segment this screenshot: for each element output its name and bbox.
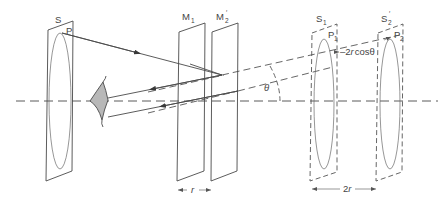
image2-label: S <box>381 13 387 24</box>
image-sep-label: 2r <box>343 183 352 194</box>
source-plate-s: S P <box>46 14 73 181</box>
source-label: S <box>55 14 61 25</box>
mirror1-sub: 1 <box>191 17 195 24</box>
theta-label: θ <box>264 82 270 93</box>
eye-icon <box>90 76 108 127</box>
mirror-m2-prime: M 2 ′ <box>211 9 238 181</box>
image-separation-dimension: 2r <box>312 183 376 194</box>
virtual-ray-back-2 <box>148 91 238 113</box>
image2-sub: 2 <box>388 19 392 26</box>
reflected-ray-2-arrow <box>160 91 238 107</box>
mirror-separation-dimension: r <box>178 184 211 195</box>
virtual-source-s1: S 1 P 1 <box>310 13 338 181</box>
mirror2-label: M <box>216 11 224 22</box>
image2-prime: ′ <box>389 10 391 17</box>
virtual-ray-back <box>148 75 224 92</box>
path-difference-annotation: –2rcosθ <box>334 37 391 57</box>
path-diff-prefix: –2rcosθ <box>340 46 375 57</box>
mirror-m1: M 1 <box>177 11 205 181</box>
virtual-ray-2 <box>238 67 333 91</box>
angle-theta: θ <box>264 66 280 101</box>
virtual-source-s2-prime: S 2 ′ P 2 <box>376 10 404 181</box>
ray-segment <box>190 64 222 75</box>
incident-ray-arrow <box>62 33 140 54</box>
mirror-sep-label: r <box>191 184 195 195</box>
image1-point-sub: 1 <box>334 35 338 42</box>
image1-label: S <box>316 13 322 24</box>
mirror1-label: M <box>182 11 190 22</box>
interferometer-diagram: S P M 1 M 2 ′ θ S 1 P <box>0 0 439 201</box>
mirror2-prime: ′ <box>226 9 228 16</box>
mirror2-sub: 2 <box>225 17 229 24</box>
image1-sub: 1 <box>323 19 327 26</box>
image2-point-sub: 2 <box>400 35 404 42</box>
